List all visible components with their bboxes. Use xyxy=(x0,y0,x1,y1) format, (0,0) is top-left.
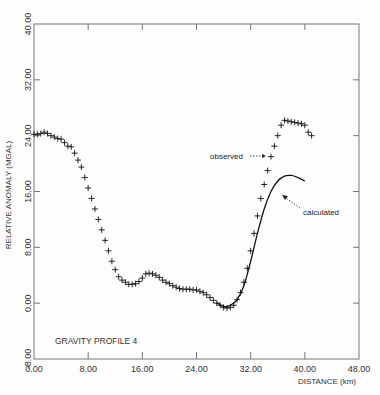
observed-point-plus-icon xyxy=(146,270,152,276)
observed-point-plus-icon xyxy=(261,182,267,188)
observed-point-plus-icon xyxy=(51,134,57,140)
observed-point-plus-icon xyxy=(75,157,81,163)
observed-point-plus-icon xyxy=(116,274,122,280)
x-axis-title: DISTANCE (km) xyxy=(298,377,356,386)
chart-title: GRAVITY PROFILE 4 xyxy=(55,336,138,346)
observed-point-plus-icon xyxy=(82,175,88,181)
y-tick-label: 0.00 xyxy=(23,294,33,312)
observed-point-plus-icon xyxy=(68,144,74,150)
observed-point-plus-icon xyxy=(275,133,281,139)
gravity-profile-chart: 0.008.0016.0024.0032.0040.0048.00 -8.000… xyxy=(0,0,380,395)
x-tick-label: 48.00 xyxy=(348,364,371,374)
observed-point-plus-icon xyxy=(177,286,183,292)
observed-point-plus-icon xyxy=(194,287,200,293)
observed-point-plus-icon xyxy=(302,122,308,128)
observed-point-plus-icon xyxy=(105,248,111,254)
observed-point-plus-icon xyxy=(278,122,284,128)
y-tick-label: 40.00 xyxy=(23,13,33,36)
observed-point-plus-icon xyxy=(139,275,145,281)
observed-point-plus-icon xyxy=(58,136,64,142)
observed-point-plus-icon xyxy=(295,120,301,126)
observed-point-plus-icon xyxy=(34,131,40,137)
observed-point-plus-icon xyxy=(129,281,135,287)
observed-point-plus-icon xyxy=(61,140,67,146)
observed-label: observed xyxy=(210,152,243,161)
observed-point-plus-icon xyxy=(298,121,304,127)
observed-point-plus-icon xyxy=(149,271,155,277)
calculated-arrow xyxy=(286,198,300,208)
observed-point-plus-icon xyxy=(292,119,298,125)
plot-frame xyxy=(34,24,359,359)
x-tick-label: 40.00 xyxy=(294,364,317,374)
observed-point-plus-icon xyxy=(99,227,105,233)
y-axis: -8.000.008.0016.0024.0032.0040.00 xyxy=(23,13,40,370)
observed-point-plus-icon xyxy=(109,258,115,264)
observed-point-plus-icon xyxy=(197,288,203,294)
observed-point-plus-icon xyxy=(210,297,216,303)
observed-point-plus-icon xyxy=(285,118,291,124)
observed-point-plus-icon xyxy=(72,150,78,156)
observed-point-plus-icon xyxy=(282,117,288,123)
observed-point-plus-icon xyxy=(95,216,101,222)
observed-point-plus-icon xyxy=(65,143,71,149)
observed-point-plus-icon xyxy=(305,129,311,135)
observed-point-plus-icon xyxy=(112,267,118,273)
observed-points xyxy=(31,117,315,311)
y-axis-title: RELATIVE ANOMALY (MGAL) xyxy=(4,140,13,249)
observed-point-plus-icon xyxy=(78,164,84,170)
observed-point-plus-icon xyxy=(309,133,315,139)
y-tick-label: 8.00 xyxy=(23,239,33,257)
observed-point-plus-icon xyxy=(102,237,108,243)
y-tick-label: 16.00 xyxy=(23,180,33,203)
observed-point-plus-icon xyxy=(265,168,271,174)
observed-point-plus-icon xyxy=(258,195,264,201)
x-tick-label: 24.00 xyxy=(185,364,208,374)
x-axis: 0.008.0016.0024.0032.0040.0048.00 xyxy=(25,352,370,374)
calculated-curve xyxy=(217,175,305,306)
observed-point-plus-icon xyxy=(143,271,149,277)
right-axis-ticks xyxy=(353,80,359,303)
observed-point-plus-icon xyxy=(41,129,47,135)
y-tick-label: 32.00 xyxy=(23,69,33,92)
observed-point-plus-icon xyxy=(251,230,257,236)
observed-point-plus-icon xyxy=(268,154,274,160)
observed-point-plus-icon xyxy=(55,135,61,141)
x-tick-label: 32.00 xyxy=(239,364,262,374)
observed-point-plus-icon xyxy=(271,143,277,149)
y-tick-label: 24.00 xyxy=(23,124,33,147)
observed-point-plus-icon xyxy=(254,213,260,219)
x-tick-label: 8.00 xyxy=(79,364,97,374)
observed-point-plus-icon xyxy=(89,195,95,201)
observed-point-plus-icon xyxy=(92,206,98,212)
observed-point-plus-icon xyxy=(207,295,213,301)
calculated-label: calculated xyxy=(303,208,339,217)
observed-point-plus-icon xyxy=(288,119,294,125)
observed-point-plus-icon xyxy=(187,286,193,292)
observed-arrowhead-icon xyxy=(262,154,266,158)
y-tick-label: -8.00 xyxy=(23,349,33,370)
observed-point-plus-icon xyxy=(85,185,91,191)
observed-point-plus-icon xyxy=(173,284,179,290)
top-axis-ticks xyxy=(88,24,305,30)
x-tick-label: 16.00 xyxy=(131,364,154,374)
